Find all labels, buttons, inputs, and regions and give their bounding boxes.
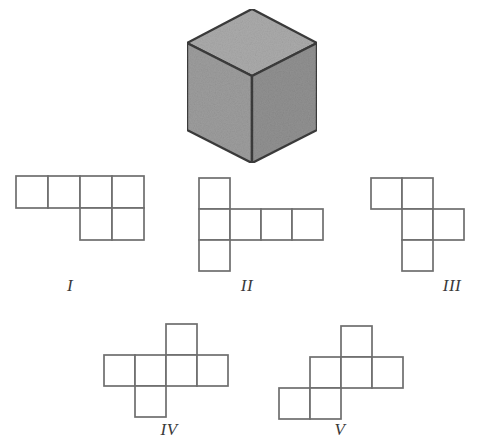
net-cell [199, 209, 230, 240]
net-cell [135, 386, 166, 417]
net-v [277, 324, 407, 420]
net-cell [341, 357, 372, 388]
net-cell [80, 208, 112, 240]
net-cell [402, 209, 433, 240]
net-cell [279, 388, 310, 419]
net-iv [102, 322, 232, 418]
net-cell [112, 208, 144, 240]
net-ii [197, 176, 327, 275]
net-i [14, 174, 148, 246]
net-cell [135, 355, 166, 386]
net-cell [341, 326, 372, 357]
net-ii-svg [197, 176, 327, 275]
net-cell [433, 209, 464, 240]
net-iv-label: IV [144, 420, 194, 440]
net-iii-label: III [424, 276, 480, 296]
net-i-svg [14, 174, 148, 246]
net-cell [197, 355, 228, 386]
net-iv-svg [102, 322, 232, 418]
net-cell [112, 176, 144, 208]
net-cell [372, 357, 403, 388]
net-iii-svg [369, 176, 468, 275]
net-cell [310, 357, 341, 388]
net-cell [310, 388, 341, 419]
net-cell [371, 178, 402, 209]
net-cell [230, 209, 261, 240]
net-cell [166, 355, 197, 386]
net-cell [402, 178, 433, 209]
net-cell [48, 176, 80, 208]
net-cell [199, 178, 230, 209]
cube-svg [186, 8, 318, 165]
net-iii [369, 176, 468, 275]
net-ii-label: II [222, 276, 272, 296]
cube-nets-figure: I II III [0, 0, 503, 448]
net-cell [402, 240, 433, 271]
net-v-svg [277, 324, 407, 420]
net-cell [292, 209, 323, 240]
net-cell [166, 324, 197, 355]
net-cell [261, 209, 292, 240]
net-cell [199, 240, 230, 271]
net-cell [16, 176, 48, 208]
net-cell [104, 355, 135, 386]
gray-cube [186, 8, 318, 164]
net-cell [80, 176, 112, 208]
net-i-label: I [50, 276, 90, 296]
net-v-label: V [320, 420, 360, 440]
